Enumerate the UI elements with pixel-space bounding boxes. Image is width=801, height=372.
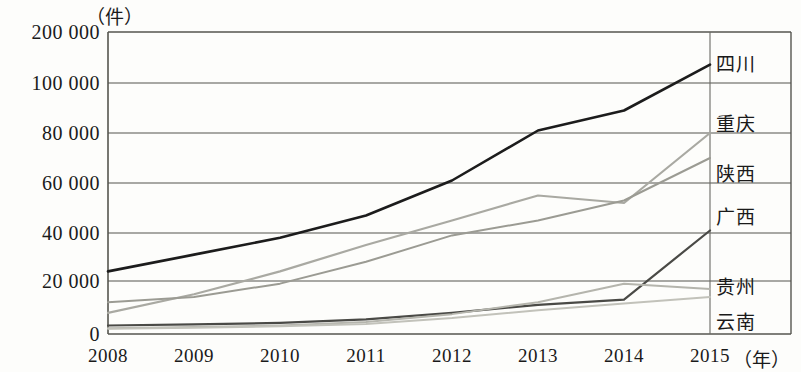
series-line-0: [108, 65, 710, 272]
x-axis-unit-label: （年）: [733, 345, 790, 372]
chart-plot-area: [0, 0, 801, 372]
series-label-四川: 四川: [716, 49, 756, 76]
series-label-广西: 广西: [716, 202, 756, 229]
x-axis-tick-2014: 2014: [604, 345, 644, 367]
x-axis-tick-2012: 2012: [432, 345, 472, 367]
x-axis-tick-labels: 20082009201020112012201320142015: [0, 341, 801, 371]
series-label-云南: 云南: [716, 307, 756, 334]
chart-root: （件） 200 000100 00080 00060 00040 00020 0…: [0, 0, 801, 372]
series-label-贵州: 贵州: [716, 272, 756, 299]
series-line-1: [108, 133, 710, 313]
x-axis-tick-2013: 2013: [518, 345, 558, 367]
x-axis-tick-2008: 2008: [88, 345, 128, 367]
series-line-3: [108, 231, 710, 326]
x-axis-tick-2009: 2009: [174, 345, 214, 367]
series-label-陕西: 陕西: [716, 159, 756, 186]
x-axis-tick-2010: 2010: [260, 345, 300, 367]
x-axis-tick-2011: 2011: [346, 345, 385, 367]
series-label-重庆: 重庆: [716, 109, 756, 136]
x-axis-tick-2015: 2015: [690, 345, 730, 367]
